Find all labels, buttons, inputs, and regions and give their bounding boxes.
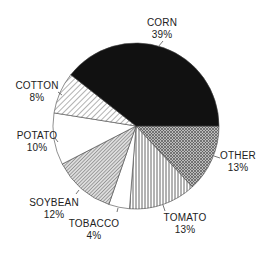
label-other-name: OTHER [216,150,260,162]
label-corn: CORN 39% [142,17,182,41]
label-other: OTHER 13% [216,150,260,174]
label-tomato: TOMATO 13% [160,212,210,236]
label-cotton: COTTON 8% [14,80,60,104]
label-potato: POTATO 10% [14,130,60,154]
label-soybean: SOYBEAN 12% [26,197,82,221]
label-tomato-pct: 13% [160,224,210,236]
label-corn-pct: 39% [142,29,182,41]
label-soybean-name: SOYBEAN [26,197,82,209]
label-potato-name: POTATO [14,130,60,142]
label-cotton-pct: 8% [14,92,60,104]
pie-slices [53,43,219,209]
label-tobacco-pct: 4% [66,230,122,242]
label-potato-pct: 10% [14,142,60,154]
label-cotton-name: COTTON [14,80,60,92]
label-other-pct: 13% [216,162,260,174]
label-soybean-pct: 12% [26,209,82,221]
label-tomato-name: TOMATO [160,212,210,224]
label-tobacco: TOBACCO 4% [66,218,122,242]
label-corn-name: CORN [142,17,182,29]
